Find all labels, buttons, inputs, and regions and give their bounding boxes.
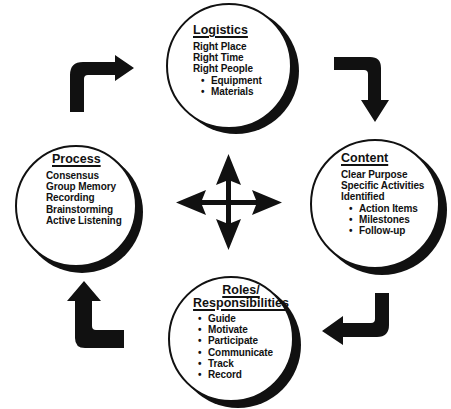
roles-bullet: Participate [190,335,292,346]
bent-arrow-right-icon [70,55,134,112]
content-title: Content [341,152,424,165]
logistics-item: Right Time [193,52,262,63]
four-way-arrow-icon [176,154,282,250]
process-item: Recording [46,192,122,203]
content-bullet: Milestones [341,214,424,225]
process-item: Consensus [46,170,122,181]
bent-arrow-left-icon [322,293,389,345]
roles-title-line1: Roles/ [222,283,260,297]
bent-arrow-up-icon [67,281,124,348]
content-item: Identified [341,191,424,202]
logistics-title: Logistics [193,24,262,37]
roles-bullet: Communicate [190,347,292,358]
content-bullet: Action Items [341,203,424,214]
process-item: Active Listening [46,215,122,226]
logistics-bullet: Equipment [193,75,262,86]
roles-bullet: Guide [190,313,292,324]
content-item: Specific Activities [341,180,424,191]
roles-title-line2: Responsibilities [193,296,289,310]
roles-bullet: Record [190,369,292,380]
logistics-item: Right Place [193,41,262,52]
content-bullet: Follow-up [341,225,424,236]
process-item: Brainstorming [46,204,122,215]
content-item: Clear Purpose [341,169,424,180]
process-item: Group Memory [46,181,122,192]
roles-title: Roles/ Responsibilities [190,284,292,310]
logistics-bullet: Materials [193,86,262,97]
logistics-node: Logistics Right Place Right Time Right P… [193,24,262,97]
roles-bullet: Track [190,358,292,369]
content-node: Content Clear Purpose Specific Activitie… [341,152,424,236]
process-node: Process Consensus Group Memory Recording… [46,153,122,226]
logistics-item: Right People [193,63,262,74]
roles-node: Roles/ Responsibilities Guide Motivate P… [190,284,292,380]
bent-arrow-down-icon [334,57,389,122]
roles-bullet: Motivate [190,324,292,335]
process-title: Process [46,153,122,166]
